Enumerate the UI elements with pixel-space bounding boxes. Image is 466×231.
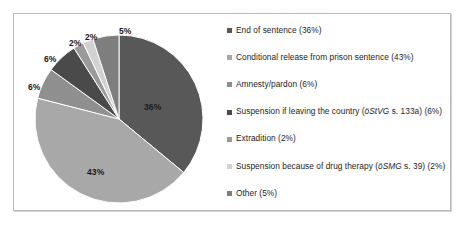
legend-item-label: Suspension if leaving the country (öStVG… [236,106,442,117]
legend-swatch-icon [227,191,232,196]
chart-legend: End of sentence (36%)Conditional release… [227,16,451,210]
legend-swatch-icon [227,164,232,169]
legend-item[interactable]: Extradition (2%) [227,133,296,145]
legend-label-statute: öSMG [378,161,402,171]
pie-slice-percentage-label: 2% [85,32,98,42]
legend-item-label: Amnesty/pardon (6%) [236,79,317,90]
pie-slice-percentage-label: 43% [87,167,104,177]
legend-swatch-icon [227,55,232,60]
legend-item-label: End of sentence (36%) [236,25,321,36]
pie-chart-plot-area: 36%43%6%6%2%2%5% [14,14,226,210]
legend-item-label: Suspension because of drug therapy (öSMG… [236,161,445,172]
legend-item[interactable]: Suspension if leaving the country (öStVG… [227,106,442,118]
legend-item[interactable]: Other (5%) [227,187,277,199]
chart-frame: 36%43%6%6%2%2%5% End of sentence (36%)Co… [13,13,451,211]
legend-item-label: Other (5%) [236,188,277,199]
legend-swatch-icon [227,110,232,115]
legend-swatch-icon [227,82,232,87]
pie-slice-percentage-label: 2% [69,38,82,48]
pie-slice-percentage-label: 5% [119,26,132,36]
legend-label-statute: öStVG [365,106,390,116]
pie-slice-percentage-label: 36% [144,102,161,112]
legend-item-label: Conditional release from prison sentence… [236,52,414,63]
legend-swatch-icon [227,137,232,142]
legend-item[interactable]: Suspension because of drug therapy (öSMG… [227,160,445,172]
legend-item-label: Extradition (2%) [236,133,296,144]
legend-swatch-icon [227,28,232,33]
legend-label-prefix: Suspension because of drug therapy ( [236,161,378,171]
legend-item[interactable]: Conditional release from prison sentence… [227,51,414,63]
legend-item[interactable]: End of sentence (36%) [227,24,321,36]
legend-label-suffix: s. 133a) (6%) [389,106,442,116]
legend-label-prefix: Suspension if leaving the country ( [236,106,365,116]
pie-slice-percentage-label: 6% [28,82,41,92]
pie-chart-svg [14,14,226,210]
legend-item[interactable]: Amnesty/pardon (6%) [227,78,317,90]
pie-slice-percentage-label: 6% [44,54,57,64]
legend-label-suffix: s. 39) (2%) [402,161,445,171]
